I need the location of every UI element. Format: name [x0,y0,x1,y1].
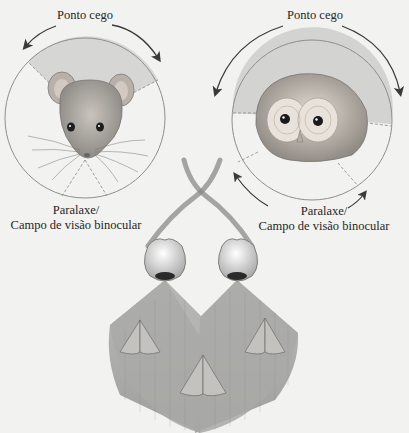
left-optic-nerve [148,160,220,246]
right-eyeball [218,239,257,281]
owl-binocular-label-line2: Campo de visão binocular [248,219,400,234]
mouse-blind-spot-arrow-left [26,26,56,46]
mouse-blind-spot-label: Ponto cego [45,8,125,23]
mouse-panel [5,25,165,198]
owl-blind-spot-label: Ponto cego [275,8,355,23]
left-eyeball [144,239,185,281]
mouse-binocular-label-line2: Campo de visão binocular [0,218,152,233]
vision-fields-diagram: Ponto cego Paralaxe/ Campo de visão bino… [0,0,409,433]
right-optic-nerve [184,160,252,246]
owl-panel [216,26,400,208]
owl-binocular-arrow-left [236,176,268,206]
mouse-binocular-label: Paralaxe/ Campo de visão binocular [0,203,152,233]
binocular-illustration [109,160,298,433]
owl-binocular-label: Paralaxe/ Campo de visão binocular [248,204,400,234]
owl-binocular-label-line1: Paralaxe/ [248,204,400,219]
mouse-binocular-label-line1: Paralaxe/ [0,203,152,218]
